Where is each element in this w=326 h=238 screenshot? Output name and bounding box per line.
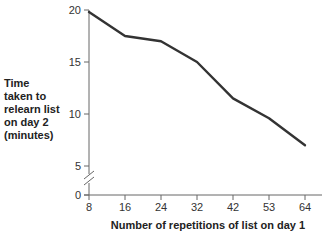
x-tick-label: 32 xyxy=(191,201,203,213)
x-tick-label: 16 xyxy=(119,201,131,213)
y-tick-label: 20 xyxy=(69,4,81,16)
y-tick-label: 0 xyxy=(75,189,81,201)
axes xyxy=(84,10,322,195)
y-tick-label: 10 xyxy=(69,108,81,120)
y-tick-label: 15 xyxy=(69,56,81,68)
x-tick-label: 8 xyxy=(86,201,92,213)
ticks: 051015208162432425364 xyxy=(69,4,311,213)
x-tick-label: 64 xyxy=(299,201,311,213)
line-chart: 051015208162432425364 xyxy=(0,0,326,238)
data-line xyxy=(89,12,305,145)
x-tick-label: 42 xyxy=(227,201,239,213)
series-line xyxy=(89,12,305,145)
x-tick-label: 24 xyxy=(155,201,167,213)
x-tick-label: 53 xyxy=(263,201,275,213)
y-tick-label: 5 xyxy=(75,160,81,172)
